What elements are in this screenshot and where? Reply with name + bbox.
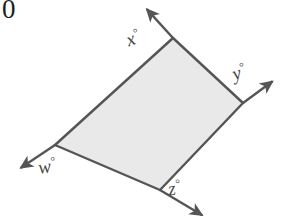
geometry-figure: 0 x° y° z° w° [0, 0, 293, 224]
problem-number: 0 [2, 0, 16, 23]
ray-right-arrow [243, 81, 273, 103]
angle-label-w: w° [37, 155, 58, 177]
figure-canvas [0, 0, 293, 224]
angle-label-z: z° [167, 177, 182, 198]
ray-top-left-arrow [147, 9, 173, 38]
